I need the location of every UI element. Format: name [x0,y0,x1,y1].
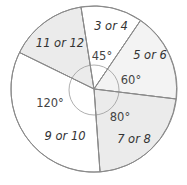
label-11-or-12: 11 or 12 [36,36,84,50]
angle-60: 60° [121,73,141,87]
angle-80: 80° [110,110,130,124]
slice-7-or-8 [94,89,176,172]
angle-120: 120° [36,96,64,110]
label-7-or-8: 7 or 8 [117,132,151,146]
label-3-or-4: 3 or 4 [94,19,128,33]
label-5-or-6: 5 or 6 [133,48,167,62]
label-9-or-10: 9 or 10 [44,129,85,143]
pie-chart: 3 or 4 45° 5 or 6 60° 80° 7 or 8 120° 9 … [0,0,187,185]
angle-45: 45° [92,49,112,63]
